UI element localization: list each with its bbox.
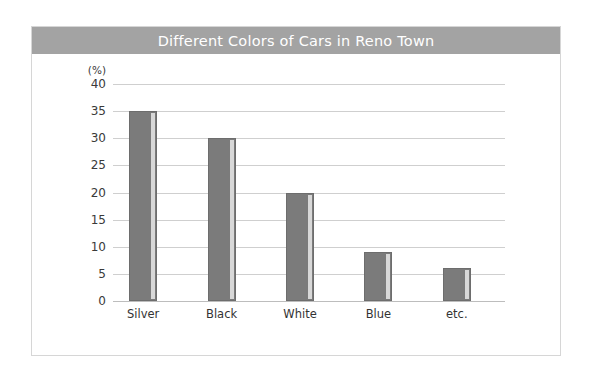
bar-item: Black — [208, 84, 236, 301]
plot-area: (%) 0510152025303540 SilverBlackWhiteBlu… — [113, 84, 505, 301]
y-axis-tick-label: 40 — [91, 77, 106, 91]
bar-item: etc. — [443, 84, 471, 301]
bar-highlight — [386, 254, 390, 299]
y-axis-tick-label: 15 — [91, 213, 106, 227]
y-axis-tick-label: 35 — [91, 104, 106, 118]
bar-item: Silver — [129, 84, 157, 301]
y-axis-tick-label: 20 — [91, 186, 106, 200]
y-axis-tick-label: 5 — [98, 267, 106, 281]
bar-item: White — [286, 84, 314, 301]
y-axis-tick-label: 30 — [91, 131, 106, 145]
bar — [208, 138, 236, 301]
x-axis-category-label: Silver — [127, 307, 159, 321]
bar-item: Blue — [364, 84, 392, 301]
bar — [364, 252, 392, 301]
y-axis-tick-label: 10 — [91, 240, 106, 254]
y-axis-tick-label: 25 — [91, 158, 106, 172]
chart-card: Different Colors of Cars in Reno Town (%… — [31, 26, 561, 356]
gridline — [113, 301, 505, 302]
bar-highlight — [465, 270, 469, 299]
x-axis-category-label: White — [283, 307, 316, 321]
x-axis-category-label: Black — [206, 307, 237, 321]
bar-highlight — [230, 140, 234, 299]
y-axis-tick-label: 0 — [98, 294, 106, 308]
chart-title-bar: Different Colors of Cars in Reno Town — [32, 27, 560, 54]
y-axis-unit-label: (%) — [88, 64, 106, 76]
bar-highlight — [308, 195, 312, 300]
chart-title: Different Colors of Cars in Reno Town — [158, 33, 435, 49]
x-axis-category-label: Blue — [366, 307, 391, 321]
bar — [286, 193, 314, 302]
bar — [129, 111, 157, 301]
bar — [443, 268, 471, 301]
bar-highlight — [151, 113, 155, 299]
x-axis-category-label: etc. — [446, 307, 468, 321]
